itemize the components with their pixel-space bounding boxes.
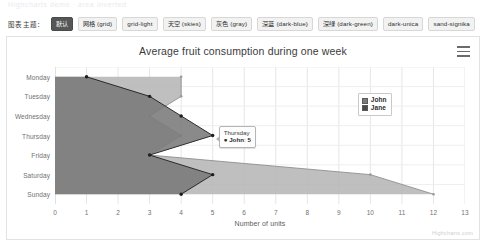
chart-legend: JohnJane — [358, 93, 392, 116]
theme-button-6[interactable]: 深绿 (dark-green) — [318, 17, 378, 31]
y-axis-label-0: Monday — [26, 73, 50, 80]
theme-button-2[interactable]: grid-light — [122, 17, 157, 31]
x-axis-tick-9: 9 — [337, 209, 341, 216]
legend-label: John — [371, 97, 387, 104]
hamburger-menu-icon[interactable] — [457, 46, 470, 57]
theme-button-0[interactable]: 默认 — [51, 17, 73, 31]
chart-title: Average fruit consumption during one wee… — [7, 45, 479, 57]
menu-bar-3 — [457, 55, 470, 57]
x-axis-tick-12: 12 — [430, 209, 437, 216]
y-axis-label-1: Tuesday — [25, 93, 50, 100]
y-axis-label-2: Wednesday — [15, 112, 50, 119]
x-axis-tick-13: 13 — [461, 209, 468, 216]
legend-item-jane[interactable]: Jane — [362, 105, 387, 112]
chart-container: Average fruit consumption during one wee… — [6, 36, 480, 240]
theme-button-8[interactable]: sand-signika — [428, 17, 475, 31]
menu-bar-2 — [457, 51, 470, 53]
chart-tooltip: Thursday ● John: 5 — [219, 126, 256, 149]
x-axis-tick-10: 10 — [367, 209, 374, 216]
legend-label: Jane — [371, 105, 386, 112]
legend-swatch-icon — [362, 105, 368, 111]
theme-button-1[interactable]: 网格 (grid) — [78, 17, 118, 31]
plot-svg — [55, 67, 465, 204]
y-axis-label-5: Saturday — [23, 171, 50, 178]
tooltip-title: Thursday — [224, 129, 251, 137]
plot-area: Number of units MondayTuesdayWednesdayTh… — [55, 67, 465, 204]
y-axis-label-4: Friday — [31, 152, 50, 159]
x-axis-title: Number of units — [55, 220, 465, 227]
theme-button-4[interactable]: 灰色 (gray) — [211, 17, 252, 31]
theme-selector-bar: 图表主题： 默认网格 (grid)grid-light天空 (skies)灰色 … — [0, 13, 485, 35]
tooltip-body: ● John: 5 — [224, 136, 251, 144]
theme-selector-label: 图表主题： — [8, 19, 45, 29]
x-axis-tick-4: 4 — [179, 209, 183, 216]
x-axis-tick-8: 8 — [305, 209, 309, 216]
x-axis-tick-2: 2 — [116, 209, 120, 216]
x-axis-tick-5: 5 — [211, 209, 215, 216]
x-axis-tick-6: 6 — [242, 209, 246, 216]
tooltip-arrow — [216, 136, 220, 142]
menu-bar-1 — [457, 46, 470, 48]
x-axis-tick-1: 1 — [85, 209, 89, 216]
y-axis-label-3: Thursday — [22, 132, 50, 139]
chart-credits: Highcharts.com — [432, 230, 473, 236]
legend-swatch-icon — [362, 98, 368, 104]
page-ghost-text: Highcharts demo · area inverted — [8, 1, 127, 10]
y-axis-label-6: Sunday — [27, 191, 50, 198]
x-axis-tick-11: 11 — [398, 209, 405, 216]
theme-button-7[interactable]: dark-unica — [383, 17, 423, 31]
legend-item-john[interactable]: John — [362, 97, 387, 104]
theme-button-5[interactable]: 深蓝 (dark-blue) — [257, 17, 313, 31]
x-axis-tick-3: 3 — [148, 209, 152, 216]
x-axis-tick-7: 7 — [274, 209, 278, 216]
theme-button-3[interactable]: 天空 (skies) — [163, 17, 206, 31]
x-axis-tick-0: 0 — [53, 209, 57, 216]
